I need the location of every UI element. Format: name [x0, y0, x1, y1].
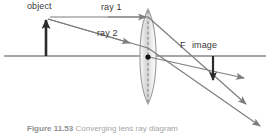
object-label: object [27, 2, 52, 11]
ray-diagram [0, 0, 270, 135]
optical-centre-dot [145, 54, 150, 59]
figure-caption-number: Figure 11.53 [27, 124, 73, 133]
ray2-label: ray 2 [97, 29, 118, 38]
focal-point-label: F [180, 41, 186, 50]
image-label: image [192, 41, 217, 50]
ray1-label: ray 1 [101, 3, 122, 12]
figure-container: object ray 1 ray 2 F image Figure 11.53 … [0, 0, 270, 135]
figure-caption-text: Converging lens ray diagram [75, 124, 177, 133]
ray2-refracted [148, 48, 260, 126]
figure-caption: Figure 11.53 Converging lens ray diagram [27, 125, 178, 134]
